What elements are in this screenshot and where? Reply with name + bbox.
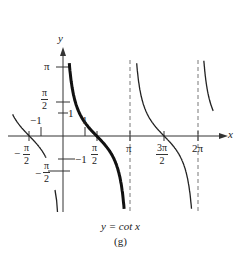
x-tick-neg-pi-half-minus: − [14, 148, 20, 159]
x-tick-neg-pi-over-2: π 2 [23, 143, 30, 166]
x-tick-1: 1 [82, 115, 88, 126]
y-axis-arrow-icon [60, 47, 66, 56]
x-tick-neg-1: −1 [30, 115, 42, 126]
x-tick-3pi-over-2: 3π 2 [156, 143, 168, 166]
y-axis-label: y [58, 33, 63, 44]
x-tick-pi-over-2: π 2 [91, 143, 98, 166]
x-axis-arrow-icon [219, 133, 228, 139]
y-tick-neg-pi-half-minus: − [35, 168, 41, 179]
y-tick-pi-over-2: π 2 [41, 88, 48, 111]
cot-branch-far-right [204, 61, 213, 111]
x-tick-2pi: 2π [192, 143, 203, 154]
y-tick-neg-pi-over-2: π 2 [43, 161, 50, 184]
cot-branch-left-lower [55, 190, 58, 212]
figure-sublabel: (g) [0, 235, 241, 247]
y-tick-neg-1: −1 [75, 154, 87, 165]
x-axis-label: x [228, 129, 233, 140]
x-ticks [29, 127, 198, 141]
y-tick-1: 1 [68, 108, 74, 119]
y-tick-pi: π [44, 61, 50, 72]
figure-caption: y = cot x [0, 220, 241, 232]
x-tick-pi: π [126, 143, 132, 154]
